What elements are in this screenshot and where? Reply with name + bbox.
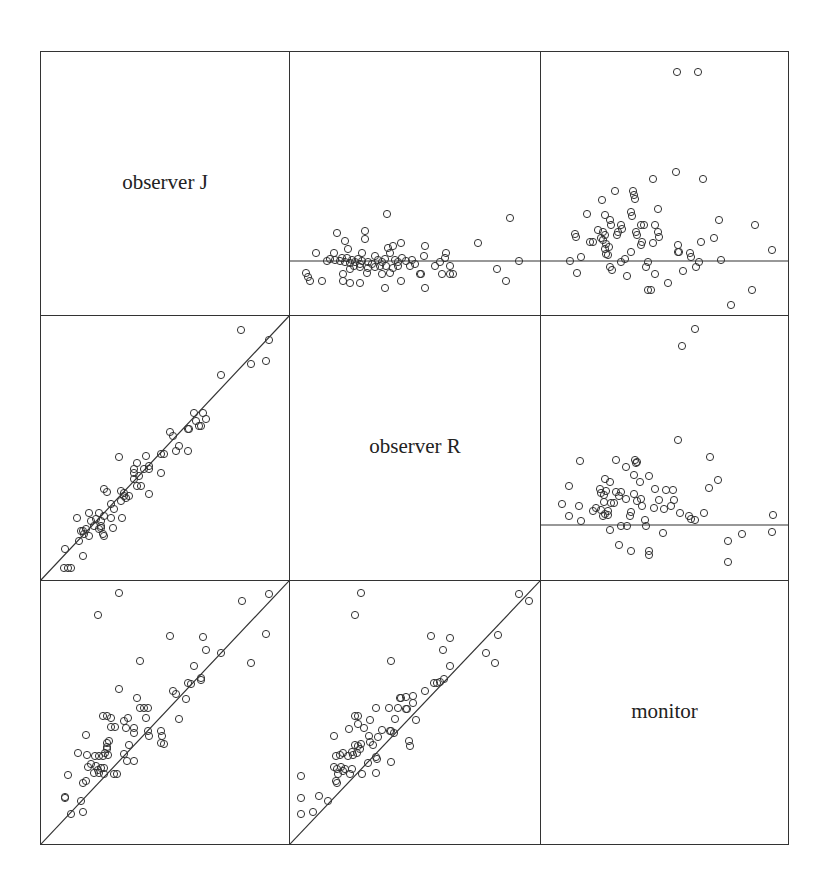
data-point <box>371 263 378 270</box>
data-point <box>394 704 401 711</box>
data-point <box>166 632 173 639</box>
data-point <box>406 742 413 749</box>
panel-r1c3-scatter <box>540 51 789 316</box>
data-point <box>649 175 656 182</box>
data-point <box>330 732 337 739</box>
data-point <box>331 256 338 263</box>
variable-label-observer-r: observer R <box>290 434 540 459</box>
data-point <box>369 741 376 748</box>
data-point <box>122 724 129 731</box>
scatterplot-matrix: observer J observer R monitor <box>40 51 789 845</box>
data-point <box>412 716 419 723</box>
data-point <box>378 270 385 277</box>
data-point <box>333 229 340 236</box>
data-point <box>706 453 713 460</box>
data-point <box>638 502 645 509</box>
data-point <box>202 646 209 653</box>
data-point <box>687 253 694 260</box>
data-point <box>606 216 613 223</box>
panel-observer-r-label: observer R <box>289 315 541 581</box>
data-point <box>172 690 179 697</box>
data-point <box>491 659 498 666</box>
data-point <box>655 233 662 240</box>
data-point <box>360 724 367 731</box>
data-point <box>182 695 189 702</box>
data-point <box>142 452 149 459</box>
data-point <box>446 662 453 669</box>
data-point <box>391 715 398 722</box>
identity-line <box>41 581 289 844</box>
data-point <box>361 235 368 242</box>
data-point <box>82 731 89 738</box>
data-point <box>366 716 373 723</box>
data-point <box>169 687 176 694</box>
data-point <box>262 630 269 637</box>
data-point <box>431 262 438 269</box>
panel-r2c3-scatter <box>540 315 789 581</box>
data-point <box>318 277 325 284</box>
data-point <box>724 537 731 544</box>
data-point <box>309 808 316 815</box>
data-point <box>158 732 165 739</box>
data-point <box>715 216 722 223</box>
data-point <box>297 772 304 779</box>
data-point <box>357 589 364 596</box>
data-point <box>247 360 254 367</box>
data-point <box>660 505 667 512</box>
data-point <box>612 456 619 463</box>
data-point <box>217 371 224 378</box>
data-point <box>724 558 731 565</box>
panel-r2c1-scatter <box>40 315 290 581</box>
data-point <box>598 196 605 203</box>
data-point <box>705 484 712 491</box>
data-point <box>123 757 130 764</box>
data-point <box>341 237 348 244</box>
data-point <box>678 342 685 349</box>
data-point <box>565 482 572 489</box>
data-point <box>115 685 122 692</box>
data-point <box>446 262 453 269</box>
data-point <box>421 242 428 249</box>
data-point <box>427 632 434 639</box>
data-point <box>606 526 613 533</box>
data-point <box>669 486 676 493</box>
data-point <box>356 279 363 286</box>
data-point <box>73 514 80 521</box>
data-point <box>100 485 107 492</box>
data-point <box>145 490 152 497</box>
data-point <box>630 471 637 478</box>
data-point <box>691 516 698 523</box>
data-point <box>115 589 122 596</box>
data-point <box>442 249 449 256</box>
data-point <box>247 659 254 666</box>
data-point <box>622 463 629 470</box>
data-point <box>727 301 734 308</box>
data-point <box>420 252 427 259</box>
variable-label-monitor: monitor <box>541 699 788 724</box>
data-point <box>344 245 351 252</box>
data-point <box>383 210 390 217</box>
data-point <box>672 168 679 175</box>
data-point <box>385 704 392 711</box>
data-point <box>387 758 394 765</box>
data-point <box>674 436 681 443</box>
data-point <box>397 277 404 284</box>
scatter-plot-area <box>41 316 289 580</box>
data-point <box>265 590 272 597</box>
data-point <box>717 256 724 263</box>
data-point <box>751 221 758 228</box>
data-point <box>493 265 500 272</box>
data-point <box>611 187 618 194</box>
data-point <box>607 221 614 228</box>
data-point <box>651 270 658 277</box>
data-point <box>345 725 352 732</box>
data-point <box>699 175 706 182</box>
data-point <box>576 457 583 464</box>
scatter-plot-area <box>541 316 788 580</box>
data-point <box>372 704 379 711</box>
data-point <box>525 597 532 604</box>
data-point <box>262 357 269 364</box>
panel-r1c2-scatter <box>289 51 541 316</box>
variable-label-observer-j: observer J <box>41 170 289 195</box>
data-point <box>297 810 304 817</box>
